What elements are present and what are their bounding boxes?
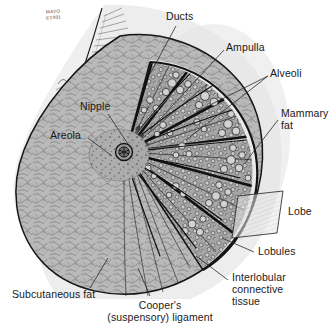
label-mammary-fat-line1: Mammary [281,108,328,120]
label-interlobular-line1: Interlobular [232,272,286,284]
label-lobules: Lobules [258,246,295,258]
label-areola: Areola [50,130,81,142]
lobe-callout-box [232,191,283,238]
mayo-copyright-year: ©1991 [46,14,61,20]
label-coopers-line2: (suspensory) ligament [92,312,228,324]
label-ampulla: Ampulla [226,42,265,54]
label-alveoli: Alveoli [270,68,302,80]
label-ducts: Ducts [166,11,193,23]
nipple [116,144,133,161]
breast-anatomy-figure: MAYO ©1991 Ducts Ampulla Alveoli Mammary… [0,0,332,329]
label-interlobular-line3: tissue [232,296,260,308]
label-interlobular-line2: connective [232,284,283,296]
label-subcutaneous-fat: Subcutaneous fat [12,289,95,301]
label-lobe: Lobe [288,206,312,218]
label-coopers-line1: Cooper's [100,300,220,312]
label-nipple: Nipple [80,101,110,113]
label-mammary-fat-line2: fat [281,120,293,132]
